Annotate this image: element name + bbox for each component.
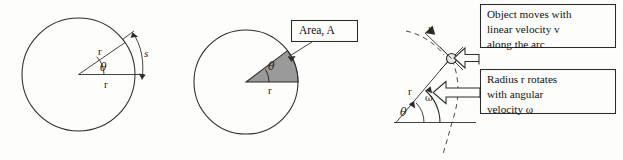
area-theta-label: θ <box>268 61 275 74</box>
linear-velocity-callout-text: Object moves with linear velocity v alon… <box>487 7 613 51</box>
angular-velocity-callout-text: Radius r rotates with angular velocity ω <box>487 72 613 116</box>
radius-arrowhead <box>409 101 415 109</box>
physics-figure-circular-motion: r θ r s θ r Area, A v r ω θ Object moves… <box>0 0 623 160</box>
area-radius-label: r <box>268 84 272 97</box>
arc-length-bracket <box>133 33 143 80</box>
velocity-label: v <box>428 22 433 35</box>
velocity-vector-line <box>425 33 452 59</box>
dashed-path-arc-lower <box>443 122 452 154</box>
arc-length-group <box>22 18 146 131</box>
dashed-path-arc-upper <box>406 31 444 55</box>
sector-area-group <box>194 21 358 135</box>
area-callout-text: Area, A <box>299 24 335 36</box>
velocity-theta-label: θ <box>400 107 407 120</box>
arc-length-label: s <box>144 47 148 60</box>
angular-velocity-block-arrow <box>433 82 480 104</box>
omega-label: ω <box>425 92 433 103</box>
arc-theta-label: θ <box>100 62 107 75</box>
velocity-radius-label: r <box>408 85 412 98</box>
theta-arc-marker-velocity <box>416 103 424 123</box>
arc-radius-label-upper: r <box>98 45 102 58</box>
arc-radius-label-lower: r <box>104 78 108 91</box>
area-leader-line <box>288 42 312 57</box>
